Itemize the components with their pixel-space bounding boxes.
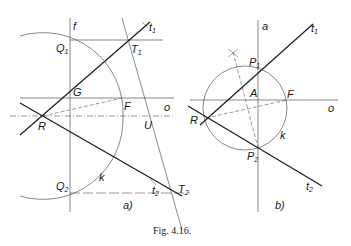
label-o-b: o: [328, 102, 334, 114]
label-k-b: k: [280, 129, 286, 141]
label-f: f: [73, 20, 77, 32]
dashed-r-f-a: [43, 98, 122, 116]
label-t2-b: t2: [306, 180, 313, 193]
panel-tag-b: b): [275, 199, 285, 211]
label-t1-a: t1: [149, 21, 156, 34]
label-k-a: k: [99, 171, 105, 183]
figure-caption: Fig. 4.16.: [153, 225, 191, 236]
circle-k-b: [203, 66, 287, 150]
label-t2-a: t2: [152, 184, 159, 197]
label-r-a: R: [38, 120, 46, 132]
label-t1-b: t1: [311, 22, 318, 35]
panel-tag-a: a): [123, 199, 133, 211]
tangent-t1-a: [20, 22, 150, 135]
tangent-t2-b: [188, 106, 322, 186]
label-o-a: o: [164, 101, 170, 113]
label-g: G: [73, 86, 82, 98]
label-a-point: A: [249, 87, 257, 99]
label-q2: Q2: [56, 180, 69, 193]
label-r-b: R: [190, 114, 198, 126]
panel-b: a t1 P1 A F o R k P2 t2 b): [188, 20, 338, 212]
construction-mark: [228, 49, 238, 57]
label-q1: Q1: [56, 42, 69, 55]
label-u: U: [144, 119, 152, 131]
tangent-t1-b: [200, 24, 313, 125]
label-t2-point: T2: [178, 183, 189, 196]
label-f-point-a: F: [124, 100, 132, 112]
panel-a: f t1 Q1 T1 G F o R U k Q2 t2 T2 a): [10, 18, 190, 230]
label-t1-point: T1: [131, 43, 142, 56]
label-p1: P1: [249, 56, 260, 69]
label-p2: P2: [247, 150, 258, 163]
label-a: a: [262, 20, 268, 32]
label-f-point-b: F: [287, 88, 295, 100]
figure-canvas: f t1 Q1 T1 G F o R U k Q2 t2 T2 a): [0, 0, 351, 246]
